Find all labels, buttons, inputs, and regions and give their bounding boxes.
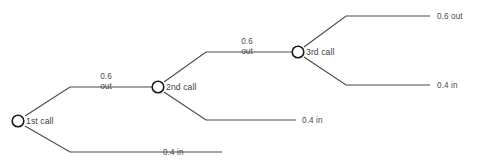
edge-label-2-up-outcome: out [234,47,260,57]
edge-label-2-up: 0.6 out [234,37,260,56]
leaf-label-3rd-call-in: 0.4 in [437,81,458,91]
edge-label-2-up-probability: 0.6 [234,37,260,47]
leaf-label-3rd-call-out: 0.6 out [437,12,463,22]
branch-2-down [164,92,296,120]
node-circle-3rd-call[interactable] [292,46,304,58]
branch-1-up [25,87,152,116]
leaf-label-1st-call-in: 0.4 in [163,148,184,158]
branch-3-up [304,16,430,47]
edge-label-1-up-probability: 0.6 [93,72,119,82]
branch-1-down [25,126,222,152]
leaf-label-2nd-call-in: 0.4 in [302,116,323,126]
branch-2-up [164,52,292,82]
node-circle-2nd-call[interactable] [152,81,164,93]
probability-tree-diagram: 1st call 2nd call 3rd call 0.6 out 0.6 o… [0,0,483,166]
node-label-3rd-call: 3rd call [306,47,335,57]
node-circle-1st-call[interactable] [12,115,24,127]
node-label-1st-call: 1st call [26,116,54,126]
tree-graphic [0,0,483,166]
edge-label-1-up-outcome: out [93,82,119,92]
node-label-2nd-call: 2nd call [166,82,196,92]
branch-3-down [304,57,430,85]
edge-label-1-up: 0.6 out [93,72,119,91]
